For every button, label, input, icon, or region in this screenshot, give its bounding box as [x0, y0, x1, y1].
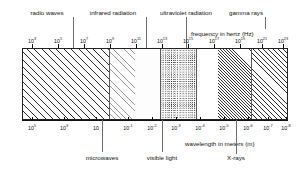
- band-divider-3: [196, 49, 197, 119]
- wavelength-tick-label: 10-8: [281, 126, 290, 131]
- label-x-rays: X-rays: [227, 155, 245, 161]
- label-visible-light: visible light: [147, 155, 177, 161]
- wavelength-tick-label: 10-7: [263, 126, 272, 131]
- leader-line-visible-light: [162, 120, 163, 152]
- spectrum-band: [22, 48, 288, 120]
- wavelength-tick-label: 10: [93, 126, 99, 131]
- band-gamma-rays: [251, 49, 288, 119]
- wavelength-tick-label: 10-4: [195, 126, 204, 131]
- leader-line-microwaves: [102, 120, 103, 152]
- wavelength-tick-mark: [224, 117, 225, 121]
- wavelength-tick-label: 10-6: [243, 126, 252, 131]
- band-divider-4: [251, 49, 252, 119]
- label-infrared-radiation: infrared radiation: [90, 10, 136, 16]
- label-gamma-rays: gamma rays: [229, 10, 263, 16]
- wavelength-tick-label: 10-1: [123, 126, 132, 131]
- leader-line-x-rays: [236, 120, 237, 152]
- electromagnetic-spectrum-figure: radio waves infrared radiation ultraviol…: [0, 0, 299, 179]
- wavelength-axis-title: wavelength in meters (m): [185, 141, 254, 147]
- leader-line-gamma-rays: [265, 17, 266, 29]
- leader-line-radio-waves: [73, 17, 74, 48]
- wavelength-tick-mark: [176, 117, 177, 121]
- band-ultraviolet-radiation: [196, 49, 218, 119]
- label-microwaves: microwaves: [86, 155, 119, 161]
- wavelength-tick-mark: [128, 117, 129, 121]
- wavelength-tick-mark: [248, 117, 249, 121]
- wavelength-tick-mark: [96, 117, 97, 121]
- wavelength-tick-mark: [64, 117, 65, 121]
- wavelength-tick-label: 10-2: [147, 126, 156, 131]
- leader-line-wavelength-title-stub: [236, 149, 237, 154]
- band-x-rays: [218, 49, 251, 119]
- wavelength-tick-mark: [32, 117, 33, 121]
- band-divider-2: [160, 49, 161, 119]
- band-microwaves: [109, 49, 135, 119]
- wavelength-tick-mark: [152, 117, 153, 121]
- wavelength-tick-label: 103: [60, 126, 68, 131]
- wavelength-tick-mark: [286, 117, 287, 121]
- band-visible-light: [160, 49, 196, 119]
- wavelength-tick-label: 10-5: [219, 126, 228, 131]
- label-radio-waves: radio waves: [30, 10, 63, 16]
- band-radio-waves: [23, 49, 109, 119]
- wavelength-tick-label: 10-3: [171, 126, 180, 131]
- label-ultraviolet-radiation: ultraviolet radiation: [160, 10, 212, 16]
- wavelength-tick-mark: [268, 117, 269, 121]
- band-infrared-radiation: [135, 49, 160, 119]
- wavelength-tick-label: 105: [28, 126, 36, 131]
- band-divider-1: [109, 49, 110, 119]
- wavelength-tick-mark: [200, 117, 201, 121]
- leader-line-infrared-radiation: [146, 17, 147, 48]
